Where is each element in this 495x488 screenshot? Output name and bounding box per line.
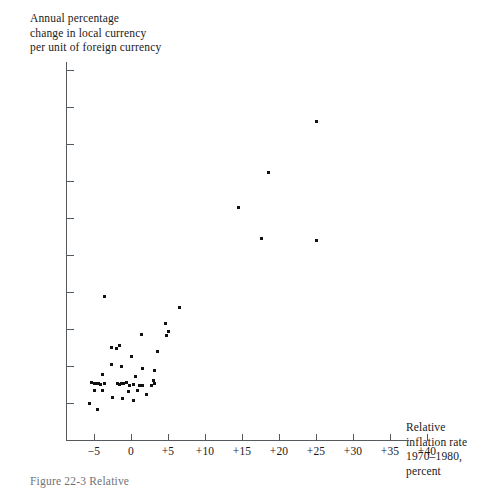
data-point — [101, 373, 104, 376]
data-point — [111, 396, 114, 399]
data-point — [156, 350, 159, 353]
data-point — [134, 375, 137, 378]
data-point — [315, 120, 318, 123]
data-point — [93, 389, 96, 392]
data-point — [110, 346, 113, 349]
x-tick-label: +30 — [333, 446, 373, 458]
data-point — [88, 402, 91, 405]
data-point — [96, 408, 99, 411]
data-point — [118, 344, 121, 347]
data-point — [178, 306, 181, 309]
data-point — [267, 171, 270, 174]
data-point — [167, 330, 170, 333]
data-point — [115, 347, 118, 350]
x-tick-label: +20 — [259, 446, 299, 458]
data-point — [110, 363, 113, 366]
data-point — [125, 381, 128, 384]
x-tick-label: +40 — [407, 446, 447, 458]
y-tick-mark — [67, 440, 74, 441]
x-tick-mark — [427, 434, 428, 441]
data-point — [145, 393, 148, 396]
data-point — [237, 206, 240, 209]
data-point — [132, 399, 135, 402]
data-point — [128, 384, 131, 387]
y-axis-title: Annual percentage change in local curren… — [30, 11, 161, 55]
data-point — [127, 390, 130, 393]
data-point — [150, 384, 153, 387]
data-point — [260, 237, 263, 240]
data-point — [153, 382, 156, 385]
data-point — [164, 322, 167, 325]
data-point — [130, 355, 133, 358]
data-point — [153, 369, 156, 372]
data-point — [101, 389, 104, 392]
data-point — [121, 397, 124, 400]
x-tick-label: +10 — [185, 446, 225, 458]
x-tick-label: +15 — [222, 446, 262, 458]
data-point — [140, 333, 143, 336]
data-point — [141, 367, 144, 370]
data-point — [165, 334, 168, 337]
data-point — [120, 365, 123, 368]
x-tick-label: 0 — [111, 446, 151, 458]
x-tick-label: +25 — [296, 446, 336, 458]
x-tick-label: +35 — [370, 446, 410, 458]
data-point — [132, 383, 135, 386]
data-point — [103, 382, 106, 385]
x-tick-label: +5 — [148, 446, 188, 458]
data-point — [315, 239, 318, 242]
data-point — [103, 295, 106, 298]
data-point — [141, 384, 144, 387]
data-point — [136, 389, 139, 392]
figure-caption: Figure 22-3 Relative — [30, 474, 129, 488]
x-tick-label: −5 — [74, 446, 114, 458]
data-point — [99, 383, 102, 386]
x-axis-line — [66, 440, 409, 441]
